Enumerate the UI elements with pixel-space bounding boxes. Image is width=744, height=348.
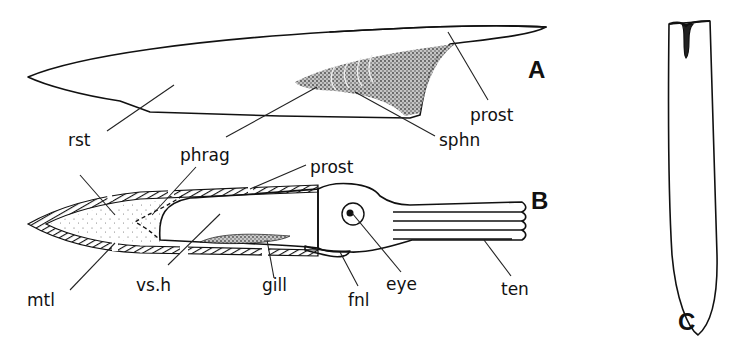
leader-rst <box>107 85 174 131</box>
panel-letter-b: B <box>531 187 548 214</box>
alveolar-groove <box>682 24 693 58</box>
leader-phrag-a <box>226 87 317 137</box>
rostrum-c-outline <box>668 21 717 335</box>
gill-shape <box>200 234 290 243</box>
panel-c: C <box>668 21 717 335</box>
label-prost-b: prost <box>310 157 354 177</box>
leader-eye <box>352 213 401 272</box>
figure-canvas: A prost sphn rst phrag prost <box>0 0 744 348</box>
tentacles <box>393 212 522 239</box>
label-phrag: phrag <box>180 145 230 165</box>
panel-letter-c: C <box>678 308 695 335</box>
panel-b: B mtl vs.h gill fnl eye ten <box>27 165 548 310</box>
leader-ten <box>484 240 511 276</box>
label-fnl: fnl <box>348 290 369 310</box>
label-mtl: mtl <box>27 290 55 310</box>
panel-letter-a: A <box>528 56 545 83</box>
label-ten: ten <box>501 279 529 299</box>
anatomy-figure: A prost sphn rst phrag prost <box>0 0 744 348</box>
phragmocone-shading <box>295 44 455 116</box>
panel-a: A prost sphn <box>28 26 546 150</box>
label-sphn: sphn <box>439 130 480 150</box>
leader-fnl <box>340 252 358 286</box>
leader-mtl <box>70 243 115 290</box>
label-rst: rst <box>68 130 91 150</box>
leader-gill <box>267 240 274 278</box>
label-vsh: vs.h <box>136 275 171 295</box>
label-gill: gill <box>262 275 287 295</box>
label-eye: eye <box>386 274 417 294</box>
rostrum-outline <box>28 26 546 118</box>
label-prost-a: prost <box>470 105 514 125</box>
